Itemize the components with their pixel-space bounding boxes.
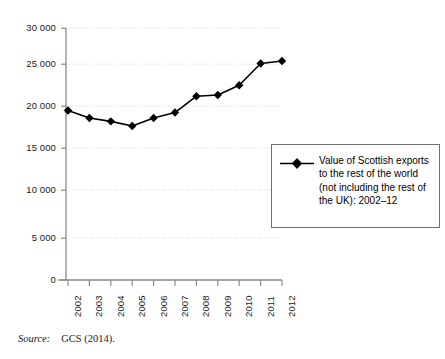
- x-axis-ticks: [68, 280, 282, 286]
- x-tick-label-2007: 2007: [179, 295, 190, 317]
- data-point-marker[interactable]: [85, 114, 93, 122]
- x-tick-label-2005: 2005: [136, 295, 147, 317]
- x-tick-label-2004: 2004: [115, 295, 126, 317]
- source-note: Source:GCS (2014).: [18, 333, 115, 344]
- figure-container: 30 000 25 000 20 000 15 000 10 000 5 000…: [0, 0, 445, 359]
- data-point-marker[interactable]: [128, 122, 136, 130]
- source-value: GCS (2014).: [61, 333, 115, 344]
- y-tick-label-15000: 15 000: [0, 142, 56, 153]
- y-tick-label-0: 0: [0, 274, 56, 285]
- x-tick-label-2012: 2012: [286, 295, 297, 317]
- x-tick-label-2003: 2003: [93, 295, 104, 317]
- x-tick-label-2008: 2008: [200, 295, 211, 317]
- data-series-scottish-exports: [64, 57, 286, 130]
- y-tick-label-20000: 20 000: [0, 100, 56, 111]
- legend-label: Value of Scottish exports to the rest of…: [319, 154, 435, 208]
- data-point-marker[interactable]: [149, 114, 157, 122]
- data-point-marker[interactable]: [107, 117, 115, 125]
- source-label: Source:: [18, 333, 50, 344]
- data-point-marker[interactable]: [214, 91, 222, 99]
- x-tick-label-2010: 2010: [243, 295, 254, 317]
- x-tick-label-2006: 2006: [158, 295, 169, 317]
- x-tick-label-2002: 2002: [72, 295, 83, 317]
- y-tick-label-5000: 5 000: [0, 232, 56, 243]
- y-tick-label-10000: 10 000: [0, 184, 56, 195]
- y-axis-ticks: [61, 28, 66, 280]
- gridlines: [66, 28, 282, 238]
- legend-entry-scottish-exports[interactable]: Value of Scottish exports to the rest of…: [272, 145, 439, 227]
- x-tick-label-2009: 2009: [222, 295, 233, 317]
- data-point-marker[interactable]: [64, 106, 72, 114]
- y-tick-label-25000: 25 000: [0, 58, 56, 69]
- diamond-marker-icon: [279, 157, 315, 170]
- chart-legend: Value of Scottish exports to the rest of…: [271, 144, 440, 228]
- y-tick-label-30000: 30 000: [0, 22, 56, 33]
- x-tick-label-2011: 2011: [265, 296, 276, 317]
